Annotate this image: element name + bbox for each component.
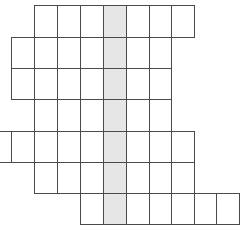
grid-cell[interactable] [149,162,172,194]
grid-cell[interactable] [80,5,104,38]
grid-cell[interactable] [194,193,217,225]
grid-cell[interactable] [149,131,172,163]
grid-cell[interactable] [57,162,81,194]
grid-cell[interactable] [171,5,195,38]
grid-cell[interactable] [11,37,35,69]
puzzle-grid [0,0,241,226]
grid-cell[interactable] [126,162,150,194]
grid-cell-highlighted[interactable] [103,131,127,163]
grid-cell[interactable] [126,5,150,38]
grid-cell-highlighted[interactable] [103,162,127,194]
grid-cell[interactable] [126,68,150,100]
grid-cell[interactable] [171,162,195,194]
grid-cell[interactable] [149,99,172,132]
grid-cell[interactable] [149,37,172,69]
grid-cell[interactable] [11,131,35,163]
grid-cell[interactable] [57,68,81,100]
grid-cell[interactable] [57,5,81,38]
grid-cell[interactable] [216,193,240,225]
grid-cell-highlighted[interactable] [103,68,127,100]
grid-cell[interactable] [34,131,58,163]
grid-cell[interactable] [126,37,150,69]
grid-cell-highlighted[interactable] [103,37,127,69]
grid-cell[interactable] [80,162,104,194]
grid-cell-highlighted[interactable] [103,5,127,38]
grid-cell[interactable] [34,68,58,100]
grid-cell[interactable] [34,37,58,69]
grid-cell-highlighted[interactable] [103,99,127,132]
grid-cell[interactable] [34,162,58,194]
grid-cell[interactable] [80,37,104,69]
grid-cell[interactable] [80,68,104,100]
grid-cell[interactable] [80,193,104,225]
grid-cell[interactable] [126,99,150,132]
grid-cell[interactable] [57,131,81,163]
grid-cell[interactable] [149,68,172,100]
grid-cell[interactable] [149,5,172,38]
grid-cell[interactable] [57,37,81,69]
grid-cell[interactable] [11,68,35,100]
grid-cell[interactable] [34,99,58,132]
grid-cell[interactable] [80,99,104,132]
grid-cell[interactable] [171,131,195,163]
grid-cell[interactable] [126,193,150,225]
grid-cell[interactable] [57,99,81,132]
grid-cell[interactable] [80,131,104,163]
grid-cell[interactable] [34,5,58,38]
grid-cell[interactable] [126,131,150,163]
grid-cell[interactable] [149,193,172,225]
grid-cell-highlighted[interactable] [103,193,127,225]
grid-cell[interactable] [171,193,195,225]
